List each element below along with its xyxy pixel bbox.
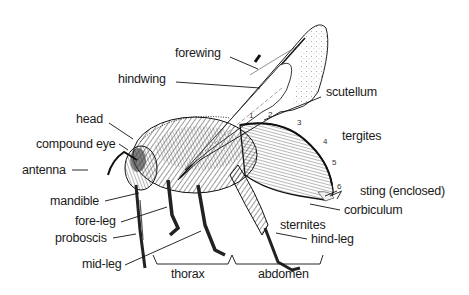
label-sting: sting (enclosed) xyxy=(360,185,445,198)
segment-number-2: 2 xyxy=(268,111,272,119)
head-shape xyxy=(125,146,157,190)
label-hind-leg: hind-leg xyxy=(311,233,354,246)
label-tergites: tergites xyxy=(342,130,381,143)
segment-number-1: 1 xyxy=(249,112,253,120)
label-mid-leg: mid-leg xyxy=(82,258,122,271)
label-fore-leg: fore-leg xyxy=(75,215,116,228)
bee-anatomy-diagram: forewing hindwing scutellum head compoun… xyxy=(0,0,469,295)
segment-number-3: 3 xyxy=(297,119,301,127)
segment-number-4: 4 xyxy=(323,138,327,146)
segment-number-6: 6 xyxy=(337,183,341,191)
label-thorax: thorax xyxy=(171,268,205,281)
label-hindwing: hindwing xyxy=(118,73,166,86)
label-mandible: mandible xyxy=(50,195,99,208)
proboscis-shape xyxy=(136,185,145,268)
label-antenna: antenna xyxy=(22,164,66,177)
label-corbiculum: corbiculum xyxy=(344,204,402,217)
label-head: head xyxy=(76,113,103,126)
mid-leg-shape xyxy=(198,185,225,255)
label-proboscis: proboscis xyxy=(55,232,107,245)
segment-number-5: 5 xyxy=(332,159,336,167)
label-abdomen: abdomen xyxy=(258,268,309,281)
label-sternites: sternites xyxy=(280,219,325,232)
label-compound-eye: compound eye xyxy=(36,138,116,151)
label-forewing: forewing xyxy=(175,47,221,60)
label-scutellum: scutellum xyxy=(326,86,377,99)
